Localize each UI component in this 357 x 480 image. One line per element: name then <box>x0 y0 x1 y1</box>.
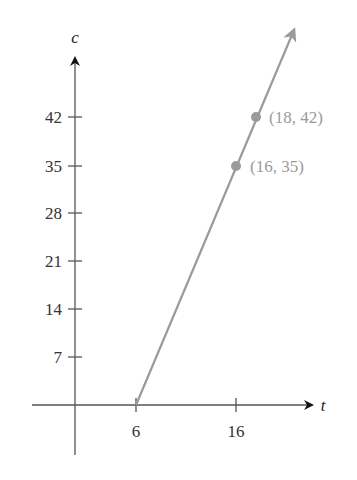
chart: 42 35 28 21 14 7 6 16 c t (16, 35) (18, … <box>0 0 357 480</box>
x-tick-label-6: 6 <box>132 422 141 441</box>
point-label-18-42: (18, 42) <box>269 108 323 127</box>
point-16-35 <box>231 161 241 171</box>
y-tick-label-42: 42 <box>45 108 62 127</box>
y-tick-label-28: 28 <box>45 204 62 223</box>
y-tick-label-14: 14 <box>45 300 63 319</box>
data-line <box>136 30 294 405</box>
point-label-16-35: (16, 35) <box>250 157 304 176</box>
x-axis-label: t <box>321 396 327 415</box>
x-tick-label-16: 16 <box>228 422 245 441</box>
y-axis-label: c <box>71 28 79 47</box>
point-18-42 <box>251 112 261 122</box>
y-tick-label-21: 21 <box>45 252 62 271</box>
y-tick-label-35: 35 <box>45 157 62 176</box>
y-tick-label-7: 7 <box>54 348 63 367</box>
